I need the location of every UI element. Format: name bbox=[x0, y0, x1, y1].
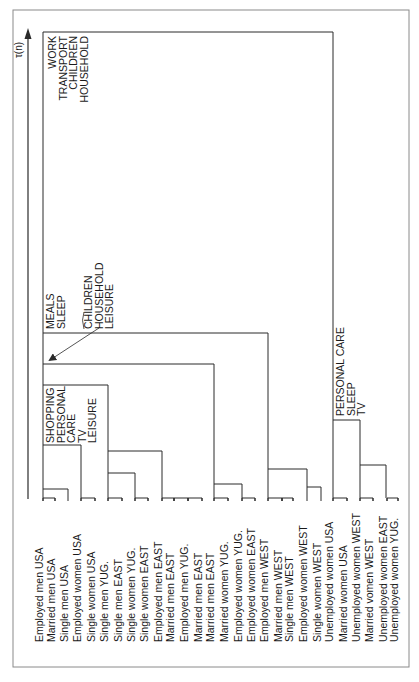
leaf-label: Employed men EAST bbox=[152, 541, 164, 642]
leaf-cap bbox=[135, 498, 148, 501]
leaf-label: Single men EAST bbox=[112, 559, 124, 642]
merge-link bbox=[43, 333, 268, 469]
merge-link bbox=[214, 484, 242, 498]
annotation-shopping: SHOPPINGPERSONALCARETVLEISURE bbox=[44, 386, 98, 443]
leaf-cap bbox=[333, 498, 347, 501]
annotation-line: SLEEP bbox=[55, 295, 67, 329]
merge-link bbox=[268, 469, 307, 498]
dendrogram-chart: τ(n) WORKTRANSPORTCHILDRENHOUSEHOLDMEALS… bbox=[0, 0, 419, 682]
leaf-label: Married vomen WEST bbox=[363, 538, 375, 642]
leaf-label: Single men USA bbox=[58, 565, 70, 642]
cluster-annotations: WORKTRANSPORTCHILDRENHOUSEHOLDMEALSSLEEP… bbox=[44, 35, 367, 443]
leaf-label: Single women USA bbox=[85, 552, 97, 642]
leaf-label: Married women YUG. bbox=[218, 541, 230, 642]
leaf-cap bbox=[387, 498, 398, 501]
annotation-meals: MEALSSLEEP bbox=[44, 293, 67, 329]
leaf-label: Married men EAST bbox=[204, 552, 216, 642]
leaf-cap bbox=[282, 498, 293, 501]
tau-axis: τ(n) bbox=[13, 28, 32, 499]
leaf-cap bbox=[81, 498, 95, 501]
merge-link bbox=[43, 489, 68, 498]
leaf-label: Unemployed women YUG. bbox=[388, 518, 400, 642]
leaf-label: Single women WEST bbox=[311, 542, 323, 642]
leaf-label: Employed women USA bbox=[71, 534, 83, 642]
leaf-cap bbox=[242, 498, 255, 501]
leaf-label: Unemployed women WEST bbox=[350, 512, 362, 642]
annotation-personal_care: PERSONAL CARESLEEPTV bbox=[334, 327, 367, 416]
leaf-labels: Employed men USAMarried men USASingle me… bbox=[33, 512, 400, 642]
leaf-label: Married men EAST bbox=[192, 552, 204, 642]
annotation-children: CHILDRENHOUSEHOLDLEISURE bbox=[82, 262, 115, 329]
leaf-label: Employed women EAST bbox=[245, 528, 257, 642]
merge-link bbox=[43, 445, 81, 498]
dendrogram-figure: τ(n) WORKTRANSPORTCHILDRENHOUSEHOLDMEALS… bbox=[0, 0, 419, 682]
annotation-line: HOUSEHOLD bbox=[78, 36, 90, 103]
leaf-label: Single men YUG. bbox=[98, 561, 110, 642]
leaf-cap bbox=[268, 498, 282, 501]
leaf-label: Employed men YUG. bbox=[178, 544, 190, 642]
merge-link bbox=[307, 487, 321, 498]
leaf-cap bbox=[162, 498, 174, 501]
leaf-label: Employed men WEST bbox=[258, 538, 270, 642]
leaf-label: Married men USA bbox=[45, 559, 57, 642]
leaf-cap bbox=[108, 498, 122, 501]
leaf-label: Employed men USA bbox=[33, 547, 45, 642]
leaf-cap bbox=[174, 498, 188, 501]
leaf-cap bbox=[360, 498, 373, 501]
leaf-label: Employed women YUG. bbox=[232, 530, 244, 642]
merge-link bbox=[360, 465, 386, 498]
axis-arrow-icon bbox=[25, 28, 32, 39]
annotation-line: LEISURE bbox=[103, 284, 115, 329]
leaf-cap bbox=[214, 498, 228, 501]
leaf-label: Unemployed women USA bbox=[323, 522, 335, 642]
axis-label: τ(n) bbox=[13, 42, 24, 58]
leaf-label: Married men EAST bbox=[164, 552, 176, 642]
leaf-label: Single women YUG. bbox=[125, 548, 137, 642]
leaf-label: Single men WEST bbox=[283, 556, 295, 642]
annotation-line: TV bbox=[355, 403, 367, 416]
leaf-cap bbox=[43, 498, 55, 501]
annotation-line: LEISURE bbox=[86, 398, 98, 443]
annotation-root: WORKTRANSPORTCHILDRENHOUSEHOLD bbox=[46, 35, 90, 102]
leaf-label: Married women USA bbox=[337, 545, 349, 642]
leaf-label: Single women EAST bbox=[138, 545, 150, 642]
leaf-label: Employed women WEST bbox=[297, 525, 309, 642]
merge-link bbox=[108, 473, 135, 498]
leaf-cap bbox=[188, 498, 202, 501]
merge-link bbox=[333, 420, 360, 498]
